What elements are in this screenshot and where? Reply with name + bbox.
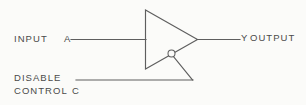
active-low-bubble-icon xyxy=(168,50,175,57)
control-diagonal-lead-wire xyxy=(174,57,193,81)
control-pin-label: C xyxy=(72,85,80,97)
input-label: INPUT xyxy=(14,33,48,45)
control-label: CONTROL xyxy=(14,85,68,97)
output-label: OUTPUT xyxy=(250,32,295,44)
tristate-buffer-schematic: INPUT A Y OUTPUT DISABLE CONTROL C xyxy=(0,0,306,105)
input-pin-label: A xyxy=(64,33,71,45)
output-pin-label: Y xyxy=(241,32,248,44)
disable-label: DISABLE xyxy=(14,72,61,84)
buffer-triangle-shape xyxy=(146,10,198,69)
